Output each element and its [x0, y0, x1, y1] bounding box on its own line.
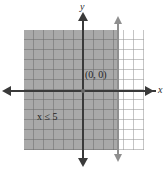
y-axis-arrow-down-icon — [78, 158, 88, 167]
linear-inequality-graph: y x (0, 0) x ≤ 5 — [0, 0, 168, 171]
boundary-arrow-down-icon — [114, 154, 122, 162]
y-axis-label: y — [80, 2, 84, 12]
x-axis-arrow-left-icon — [2, 86, 11, 96]
origin-point — [81, 89, 85, 93]
origin-label: (0, 0) — [85, 70, 107, 80]
x-axis-label: x — [158, 85, 162, 95]
x-axis-arrow-right-icon — [145, 86, 154, 96]
y-axis-arrow-up-icon — [78, 12, 88, 21]
boundary-arrow-up-icon — [114, 16, 122, 24]
inequality-label: x ≤ 5 — [37, 112, 58, 122]
